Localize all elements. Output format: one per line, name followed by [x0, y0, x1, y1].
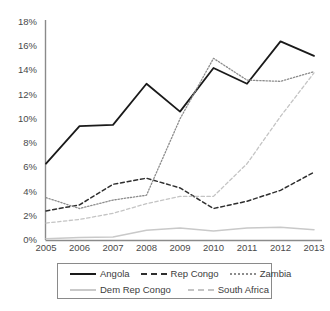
- legend-item-rep-congo[interactable]: Rep Congo: [141, 268, 219, 279]
- x-tick-label: 2007: [102, 242, 123, 253]
- axis-spines: [46, 20, 323, 241]
- x-axis-tick-labels: 200520062007200820092010201120122013: [0, 242, 330, 258]
- legend-item-zambia[interactable]: Zambia: [230, 268, 292, 279]
- legend-row-first: Angola Rep Congo Zambia: [58, 265, 271, 282]
- legend-swatch-south-africa: [188, 289, 214, 291]
- x-tick-label: 2012: [270, 242, 291, 253]
- x-tick-label: 2013: [303, 242, 324, 253]
- legend-swatch-zambia: [230, 273, 256, 275]
- series-line-rep-congo: [46, 172, 314, 211]
- legend-item-dem-rep-congo[interactable]: Dem Rep Congo: [70, 284, 171, 295]
- legend-label-angola: Angola: [100, 268, 130, 279]
- x-tick-label: 2009: [169, 242, 190, 253]
- x-tick-label: 2006: [69, 242, 90, 253]
- legend-label-dem-rep-congo: Dem Rep Congo: [100, 284, 171, 295]
- series-line-zambia: [46, 58, 314, 208]
- data-series-layer: [46, 41, 314, 238]
- legend-label-rep-congo: Rep Congo: [171, 268, 219, 279]
- series-line-angola: [46, 41, 314, 163]
- legend-swatch-dem-rep-congo: [70, 289, 96, 291]
- line-chart: 0%2%4%6%8%10%12%14%16%18% 20052006200720…: [0, 0, 330, 311]
- legend-row-second: Dem Rep Congo South Africa: [58, 281, 271, 298]
- x-tick-label: 2010: [203, 242, 224, 253]
- x-tick-label: 2008: [136, 242, 157, 253]
- x-tick-label: 2005: [35, 242, 56, 253]
- legend-label-zambia: Zambia: [260, 268, 292, 279]
- series-line-dem-rep-congo: [46, 227, 314, 239]
- legend-swatch-rep-congo: [141, 273, 167, 275]
- chart-legend: Angola Rep Congo Zambia Dem Rep Congo So…: [57, 263, 272, 299]
- legend-item-south-africa[interactable]: South Africa: [188, 284, 269, 295]
- legend-swatch-angola: [70, 273, 96, 275]
- x-tick-label: 2011: [237, 242, 257, 253]
- legend-item-angola[interactable]: Angola: [70, 268, 130, 279]
- legend-label-south-africa: South Africa: [218, 284, 269, 295]
